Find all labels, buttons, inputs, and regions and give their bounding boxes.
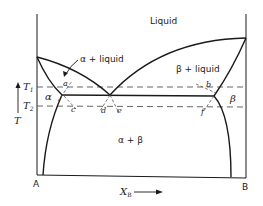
- bottom-axis: [37, 175, 246, 178]
- point-b: b: [206, 80, 211, 89]
- beta-solvus: [214, 96, 231, 177]
- label-xb: XB: [119, 186, 132, 198]
- alpha-solvus: [43, 95, 62, 175]
- point-e: e: [117, 106, 122, 115]
- label-alpha-beta: α + β: [118, 135, 143, 145]
- phase-diagram: Liquid α + liquid β + liquid α β α + β a…: [0, 0, 263, 206]
- t2-dashed-line: [37, 106, 246, 107]
- label-t2: T2: [23, 100, 34, 112]
- label-liquid: Liquid: [150, 16, 177, 26]
- label-a-end: A: [33, 179, 40, 189]
- label-b-end: B: [242, 182, 248, 192]
- label-alpha-liquid: α + liquid: [80, 54, 124, 64]
- point-d: d: [101, 106, 106, 115]
- label-beta: β: [229, 93, 236, 104]
- tangent-f: [203, 96, 214, 112]
- point-c: c: [71, 105, 76, 114]
- up-arrow-icon: [16, 82, 21, 88]
- label-beta-liquid: β + liquid: [176, 64, 220, 74]
- point-a: a: [63, 79, 68, 88]
- label-alpha: α: [45, 91, 52, 102]
- eutectic-line: [62, 95, 214, 96]
- label-t1: T1: [23, 81, 34, 93]
- label-temperature: T: [14, 115, 22, 126]
- right-arrow-icon: [156, 190, 163, 195]
- alpha-solidus: [37, 57, 62, 95]
